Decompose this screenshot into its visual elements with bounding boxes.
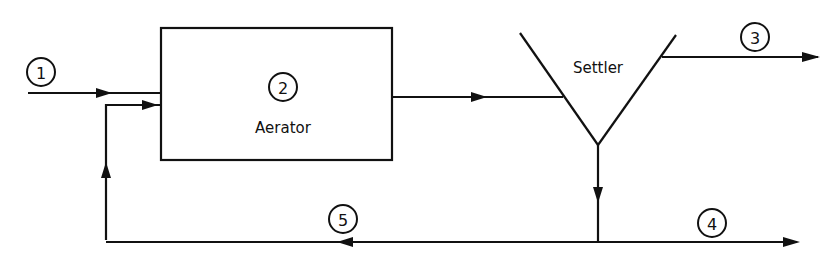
stream-1-line xyxy=(28,88,161,98)
aerator-to-settler-line xyxy=(392,92,563,102)
aerator-label: Aerator xyxy=(255,119,312,137)
svg-text:1: 1 xyxy=(36,64,46,83)
svg-text:5: 5 xyxy=(338,211,348,230)
svg-text:3: 3 xyxy=(750,29,760,48)
settler-vessel xyxy=(520,33,676,145)
stream-5-marker: 5 xyxy=(329,205,357,233)
stream-3-line xyxy=(662,52,820,62)
arrow-right-icon xyxy=(142,100,158,110)
arrow-down-icon xyxy=(593,187,603,203)
stream-1-marker: 1 xyxy=(27,58,55,86)
svg-text:2: 2 xyxy=(278,79,288,98)
flow-diagram: 1 2 Aerator Settler 3 4 5 xyxy=(0,0,838,266)
bottom-line xyxy=(106,237,800,247)
arrow-right-icon xyxy=(783,237,800,247)
arrow-up-icon xyxy=(101,162,111,178)
arrow-left-icon xyxy=(337,237,353,247)
underflow-line xyxy=(593,145,603,242)
settler-label: Settler xyxy=(573,59,624,77)
recycle-entry-line xyxy=(101,100,161,240)
svg-text:4: 4 xyxy=(707,215,717,234)
stream-3-marker: 3 xyxy=(741,23,769,51)
arrow-right-icon xyxy=(471,92,487,102)
arrow-right-icon xyxy=(802,52,820,62)
aerator-number-marker: 2 xyxy=(269,73,297,101)
arrow-right-icon xyxy=(96,88,112,98)
stream-4-marker: 4 xyxy=(698,209,726,237)
